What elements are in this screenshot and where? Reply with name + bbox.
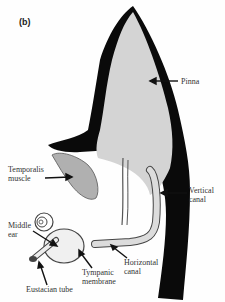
ear-anatomy-figure: (b) Pinna Temporalis muscle Vertical can… bbox=[0, 0, 225, 302]
label-pinna: Pinna bbox=[181, 77, 199, 86]
cartilage-fold bbox=[122, 158, 123, 225]
ear-anatomy-drawing bbox=[0, 0, 225, 302]
label-tympanic-membrane: Tympanic membrane bbox=[82, 268, 116, 286]
pinna-inner-surface bbox=[97, 12, 173, 195]
temporalis-muscle bbox=[52, 153, 98, 199]
label-temporalis-muscle: Temporalis muscle bbox=[8, 165, 44, 183]
panel-label: (b) bbox=[19, 17, 31, 27]
cartilage-fold-2 bbox=[127, 160, 128, 225]
label-middle-ear: Middle ear bbox=[8, 221, 31, 239]
label-eustachian-tube: Eustacian tube bbox=[26, 285, 73, 294]
label-vertical-canal: Vertical canal bbox=[189, 186, 214, 204]
label-horizontal-canal: Horizontal canal bbox=[124, 258, 158, 276]
cochlea bbox=[35, 213, 53, 231]
